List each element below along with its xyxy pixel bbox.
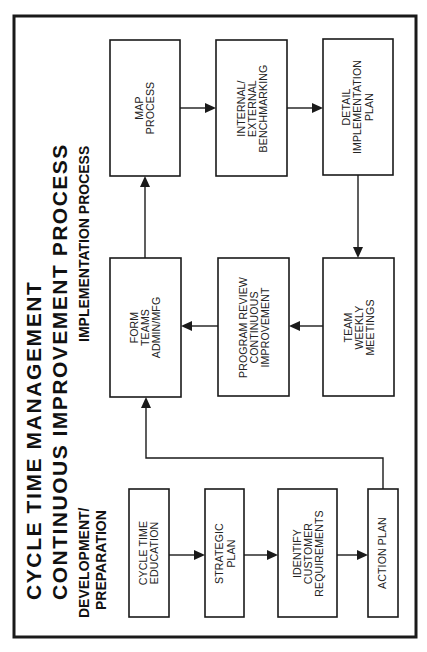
box-action-plan-label-wrap: ACTION PLAN xyxy=(368,489,398,617)
box-form-teams-label-wrap: FORM TEAMS ADMIN/MFG xyxy=(110,258,181,397)
box-identify-requirements-label: IDENTIFY CUSTOMER REQUIREMENTS xyxy=(278,489,337,617)
box-program-review-label-wrap: PROGRAM REVIEW CONTINUOUS IMPROVEMENT xyxy=(218,258,289,396)
arrow-review-to-form-teams xyxy=(181,321,218,331)
box-map-process-label: MAP PROCESS xyxy=(110,40,180,176)
box-team-meetings-label: TEAM WEEKLY MEETINGS xyxy=(323,258,394,396)
section-development-heading-1: DEVELOPMENT/ xyxy=(76,508,92,618)
title-line-1: CYCLE TIME MANAGEMENT xyxy=(22,281,46,600)
box-strategic-plan-label: STRATEGIC PLAN xyxy=(205,489,244,617)
arrow-strategic-to-identify xyxy=(244,550,278,560)
box-action-plan-label: ACTION PLAN xyxy=(368,489,398,617)
connector-action-to-form-teams xyxy=(141,397,383,489)
arrow-meetings-to-review xyxy=(289,321,323,331)
arrow-education-to-strategic xyxy=(169,550,205,560)
box-identify-requirements-label-wrap: IDENTIFY CUSTOMER REQUIREMENTS xyxy=(278,489,337,617)
arrow-detail-to-meetings xyxy=(353,175,363,258)
title-line-2: CONTINUOUS IMPROVEMENT PROCESS xyxy=(48,143,72,600)
box-cycle-time-education-label: CYCLE TIME EDUCATION xyxy=(129,489,169,617)
box-detail-plan-label-wrap: DETAIL IMPLEMENTATION PLAN xyxy=(323,39,393,175)
box-benchmarking-label-wrap: INTERNAL/ EXTERNAL BENCHMARKING xyxy=(216,40,287,176)
box-benchmarking-label: INTERNAL/ EXTERNAL BENCHMARKING xyxy=(216,40,287,176)
box-strategic-plan-label-wrap: STRATEGIC PLAN xyxy=(205,489,244,617)
arrow-identify-to-action xyxy=(337,550,368,560)
box-program-review-label: PROGRAM REVIEW CONTINUOUS IMPROVEMENT xyxy=(218,258,289,396)
arrow-map-to-benchmarking xyxy=(180,103,216,113)
section-implementation-heading: IMPLEMENTATION PROCESS xyxy=(76,146,92,342)
box-team-meetings-label-wrap: TEAM WEEKLY MEETINGS xyxy=(323,258,394,396)
box-cycle-time-education-label-wrap: CYCLE TIME EDUCATION xyxy=(129,489,169,617)
box-form-teams-label: FORM TEAMS ADMIN/MFG xyxy=(110,258,181,397)
box-detail-plan-label: DETAIL IMPLEMENTATION PLAN xyxy=(323,39,393,175)
section-development-heading-2: PREPARATION xyxy=(93,510,109,610)
arrow-form-teams-to-map xyxy=(140,176,150,258)
box-map-process-label-wrap: MAP PROCESS xyxy=(110,40,180,176)
arrow-benchmarking-to-detail xyxy=(287,103,323,113)
